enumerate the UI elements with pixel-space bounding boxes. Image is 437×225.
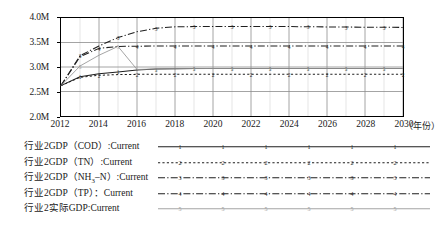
x-axis-tick-label: 2028 bbox=[356, 119, 375, 129]
legend-item-label: 行业2实际GDP:Current bbox=[24, 201, 119, 217]
legend-marker: 3 bbox=[265, 175, 268, 181]
legend-sample-svg: 444444 bbox=[158, 186, 430, 202]
x-axis-tick-label: 2024 bbox=[280, 119, 299, 129]
chart-legend: 行业2GDP（COD）:Current111111行业2GDP（TN）:Curr… bbox=[0, 139, 437, 221]
series-marker: 2 bbox=[326, 72, 329, 78]
series-marker: 2 bbox=[250, 72, 253, 78]
chart-plot-area: 2.0M2.5M3.0M3.5M4.0M 1111111112222222223… bbox=[0, 0, 437, 140]
y-axis-tick-label: 2.0M bbox=[29, 112, 49, 122]
y-axis-tick-label: 3.5M bbox=[29, 37, 49, 47]
y-axis-tick-label: 2.5M bbox=[29, 87, 49, 97]
series-marker: 4 bbox=[364, 44, 367, 50]
series-marker: 4 bbox=[326, 44, 329, 50]
plot-frame: 1111111112222222223333333334444444445555… bbox=[60, 17, 404, 117]
series-marker: 3 bbox=[307, 24, 310, 30]
legend-item[interactable]: 行业2GDP（COD）:Current111111 bbox=[0, 139, 437, 155]
series-marker: 5 bbox=[155, 67, 158, 73]
legend-sample-svg: 333333 bbox=[158, 170, 430, 186]
legend-marker: 4 bbox=[222, 191, 225, 197]
series-marker: 3 bbox=[269, 24, 272, 30]
legend-marker: 4 bbox=[265, 191, 268, 197]
legend-item-sample: 222222 bbox=[158, 155, 430, 171]
legend-item-sample: 444444 bbox=[158, 186, 430, 202]
series-marker: 5 bbox=[117, 44, 120, 50]
series-marker: 2 bbox=[364, 72, 367, 78]
series-marker: 3 bbox=[345, 25, 348, 31]
series-marker: 4 bbox=[212, 44, 215, 50]
series-line bbox=[61, 74, 403, 85]
series-marker: 2 bbox=[402, 72, 405, 78]
series-marker: 4 bbox=[136, 44, 139, 50]
series-marker: 5 bbox=[231, 66, 234, 72]
series-marker: 4 bbox=[288, 44, 291, 50]
legend-sample-svg: 222222 bbox=[158, 155, 430, 171]
legend-marker: 3 bbox=[179, 175, 182, 181]
series-marker: 5 bbox=[307, 66, 310, 72]
legend-marker: 5 bbox=[351, 206, 354, 212]
series-marker: 4 bbox=[98, 46, 101, 52]
legend-item-sample: 111111 bbox=[158, 139, 430, 155]
x-axis-tick-label: 2022 bbox=[242, 119, 261, 129]
x-axis-unit-label: （年份） bbox=[404, 119, 437, 132]
legend-item[interactable]: 行业2GDP（TN）:Current222222 bbox=[0, 155, 437, 171]
legend-marker: 4 bbox=[308, 191, 311, 197]
y-axis-tick-label: 3.0M bbox=[29, 62, 49, 72]
legend-marker: 5 bbox=[179, 206, 182, 212]
legend-marker: 4 bbox=[351, 191, 354, 197]
series-marker: 4 bbox=[174, 44, 177, 50]
legend-marker: 4 bbox=[394, 191, 397, 197]
legend-marker: 3 bbox=[394, 175, 397, 181]
x-axis-tick-label: 2020 bbox=[203, 119, 222, 129]
series-marker: 2 bbox=[136, 72, 139, 78]
legend-item-label: 行业2GDP（TP）：Current bbox=[24, 186, 133, 202]
legend-item-sample: 555555 bbox=[158, 201, 430, 217]
legend-item-sample: 333333 bbox=[158, 170, 430, 186]
legend-marker: 1 bbox=[222, 144, 225, 150]
series-marker: 4 bbox=[250, 44, 253, 50]
legend-marker: 5 bbox=[222, 206, 225, 212]
legend-marker: 2 bbox=[222, 160, 225, 166]
series-marker: 5 bbox=[345, 66, 348, 72]
legend-marker: 5 bbox=[394, 206, 397, 212]
legend-marker: 2 bbox=[308, 160, 311, 166]
legend-marker: 2 bbox=[265, 160, 268, 166]
chart-screenshot: 2.0M2.5M3.0M3.5M4.0M 1111111112222222223… bbox=[0, 0, 437, 225]
legend-marker: 1 bbox=[351, 144, 354, 150]
legend-item[interactable]: 行业2实际GDP:Current555555 bbox=[0, 201, 437, 217]
series-marker: 3 bbox=[383, 25, 386, 31]
legend-sample-svg: 555555 bbox=[158, 201, 430, 217]
series-line bbox=[61, 26, 403, 85]
series-marker: 5 bbox=[79, 64, 82, 70]
legend-marker: 2 bbox=[179, 160, 182, 166]
y-axis-labels: 2.0M2.5M3.0M3.5M4.0M bbox=[0, 17, 57, 117]
legend-marker: 1 bbox=[308, 144, 311, 150]
series-marker: 2 bbox=[98, 73, 101, 79]
series-marker: 2 bbox=[288, 72, 291, 78]
x-axis-tick-label: 2014 bbox=[89, 119, 108, 129]
legend-marker: 1 bbox=[179, 144, 182, 150]
series-marker: 2 bbox=[174, 72, 177, 78]
legend-marker: 5 bbox=[308, 206, 311, 212]
series-marker: 4 bbox=[402, 44, 405, 50]
series-marker: 2 bbox=[212, 72, 215, 78]
series-marker: 3 bbox=[193, 24, 196, 30]
legend-item[interactable]: 行业2GDP（TP）：Current444444 bbox=[0, 186, 437, 202]
series-marker: 3 bbox=[117, 35, 120, 41]
series-lines: 1111111112222222223333333334444444445555… bbox=[61, 18, 403, 116]
y-axis-tick-label: 4.0M bbox=[29, 12, 49, 22]
x-axis-tick-label: 2026 bbox=[318, 119, 337, 129]
series-marker: 5 bbox=[383, 66, 386, 72]
legend-item-label: 行业2GDP（TN）:Current bbox=[24, 155, 132, 171]
series-marker: 5 bbox=[193, 66, 196, 72]
series-marker: 3 bbox=[231, 24, 234, 30]
legend-marker: 3 bbox=[351, 175, 354, 181]
legend-marker: 2 bbox=[351, 160, 354, 166]
legend-marker: 5 bbox=[265, 206, 268, 212]
legend-item[interactable]: 行业2GDP（NH3–N）:Current333333 bbox=[0, 170, 437, 186]
series-marker: 3 bbox=[155, 26, 158, 32]
x-axis-tick-label: 2016 bbox=[127, 119, 146, 129]
legend-marker: 3 bbox=[308, 175, 311, 181]
legend-item-label: 行业2GDP（COD）:Current bbox=[24, 139, 139, 155]
legend-marker: 1 bbox=[394, 144, 397, 150]
legend-sample-svg: 111111 bbox=[158, 139, 430, 155]
